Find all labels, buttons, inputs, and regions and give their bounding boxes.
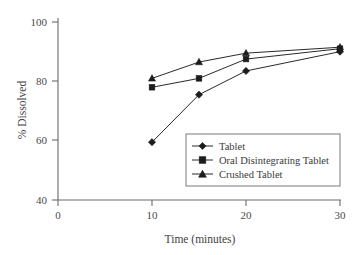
y-tick-label-60: 60	[36, 134, 48, 146]
x-tick-label-10: 10	[147, 209, 159, 221]
square-marker-icon	[199, 157, 206, 164]
x-tick-label-30: 30	[335, 209, 347, 221]
series-markers-tablet	[148, 48, 343, 146]
y-tick-label-80: 80	[36, 75, 48, 87]
x-axis-title: Time (minutes)	[165, 233, 236, 246]
x-tick-label-0: 0	[55, 209, 61, 221]
dissolution-chart-figure: 100 80 60 40 0 10 20 30 Time (minutes) %…	[0, 0, 358, 255]
legend-label-oral-disintegrating-tablet: Oral Disintegrating Tablet	[219, 155, 329, 166]
y-axis-title: % Dissolved	[16, 81, 28, 140]
y-tick-label-100: 100	[31, 16, 48, 28]
series-line-tablet	[152, 52, 340, 142]
legend-label-tablet: Tablet	[219, 141, 245, 152]
x-axis-ticks	[58, 200, 340, 206]
chart-legend: Tablet Oral Disintegrating Tablet Crushe…	[186, 134, 340, 186]
y-axis-ticks	[52, 22, 58, 200]
chart-canvas: 100 80 60 40 0 10 20 30 Time (minutes) %…	[0, 0, 358, 255]
legend-label-crushed-tablet: Crushed Tablet	[219, 169, 283, 180]
y-tick-label-40: 40	[36, 194, 48, 206]
x-tick-label-20: 20	[241, 209, 253, 221]
